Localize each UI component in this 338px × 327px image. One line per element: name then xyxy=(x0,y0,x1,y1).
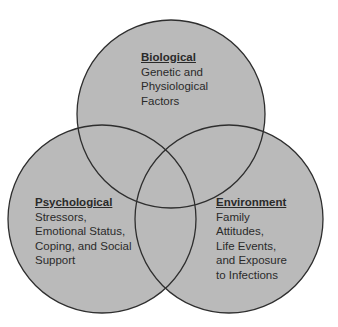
environment-title: Environment xyxy=(216,195,287,210)
biological-line: Physiological xyxy=(141,79,208,94)
biological-title: Biological xyxy=(141,50,208,65)
psychological-line: Emotional Status, xyxy=(35,224,132,239)
biological-line: Genetic and xyxy=(141,65,208,80)
environment-line: and Exposure xyxy=(216,253,287,268)
psychological-line: Stressors, xyxy=(35,210,132,225)
biological-line: Factors xyxy=(141,94,208,109)
psychological-title: Psychological xyxy=(35,195,132,210)
psychological-label: Psychological Stressors, Emotional Statu… xyxy=(35,195,132,268)
environment-line: to Infections xyxy=(216,268,287,283)
environment-label: Environment Family Attitudes, Life Event… xyxy=(216,195,287,282)
environment-line: Family xyxy=(216,210,287,225)
psychological-line: Coping, and Social xyxy=(35,239,132,254)
psychological-line: Support xyxy=(35,253,132,268)
environment-line: Attitudes, xyxy=(216,224,287,239)
biological-label: Biological Genetic and Physiological Fac… xyxy=(141,50,208,108)
environment-line: Life Events, xyxy=(216,239,287,254)
